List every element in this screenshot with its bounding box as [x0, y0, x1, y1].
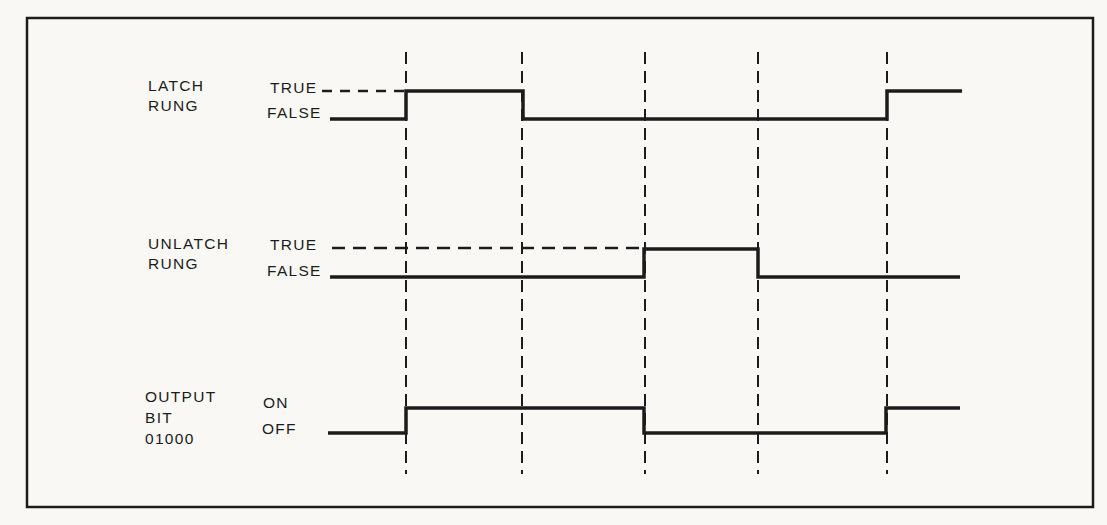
unlatch-rung-label: UNLATCH RUNG [148, 234, 229, 274]
latch-false-level-label: FALSE [267, 103, 322, 123]
waveform-unlatch-rung [330, 249, 960, 277]
waveform-output-bit [328, 408, 960, 433]
latch-true-level-label: TRUE [270, 78, 317, 98]
latch-rung-label: LATCH RUNG [148, 76, 204, 116]
unlatch-false-level-label: FALSE [267, 261, 322, 281]
latch-unlatch-timing-diagram: LATCH RUNG TRUE FALSE UNLATCH RUNG TRUE … [0, 0, 1107, 525]
output-off-level-label: OFF [262, 419, 297, 439]
unlatch-true-level-label: TRUE [270, 235, 317, 255]
output-bit-label: OUTPUT BIT 01000 [145, 386, 217, 449]
output-on-level-label: ON [263, 393, 289, 413]
